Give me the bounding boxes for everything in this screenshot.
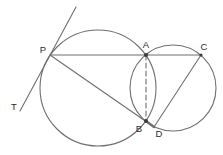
point-A: [144, 53, 148, 57]
label-A: A: [143, 39, 150, 50]
label-P: P: [40, 44, 46, 55]
point-B: [144, 119, 148, 123]
label-B: B: [136, 123, 142, 134]
tangent-line-through-P: [20, 7, 76, 111]
chord-C-D: [154, 55, 201, 127]
point-C: [199, 53, 202, 56]
label-T: T: [11, 101, 17, 112]
geometry-figure: PACTBD: [0, 0, 223, 155]
geometry-diagram: PACTBD: [0, 0, 223, 155]
small-circle: [130, 45, 216, 131]
secant-P-B-D: [50, 55, 154, 127]
label-C: C: [201, 41, 208, 52]
label-D: D: [156, 128, 163, 139]
